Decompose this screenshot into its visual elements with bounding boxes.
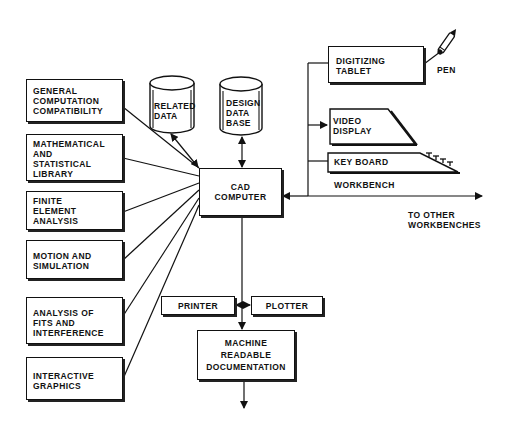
label-line: DATA bbox=[154, 111, 196, 121]
label-line: STATISTICAL bbox=[33, 159, 122, 169]
label-line: DISPLAY bbox=[333, 126, 372, 136]
label-line: SIMULATION bbox=[33, 261, 122, 271]
label-line: INTERFERENCE bbox=[33, 328, 122, 338]
label-line: TABLET bbox=[336, 66, 423, 76]
cad-computer-box: CAD COMPUTER bbox=[199, 168, 282, 216]
edge-ig-cad bbox=[123, 205, 199, 379]
printer-label: PRINTER bbox=[178, 301, 218, 311]
label-line: DATA bbox=[226, 108, 260, 118]
label-line: WORKBENCHES bbox=[408, 220, 481, 230]
label-line: LIBRARY bbox=[33, 169, 122, 179]
label-line: CAD bbox=[231, 182, 251, 192]
label-line: COMPUTER bbox=[215, 192, 267, 202]
label-line: READABLE bbox=[221, 349, 271, 361]
workbench-label: WORKBENCH bbox=[334, 180, 395, 190]
module-finite-element: FINITE ELEMENT ANALYSIS bbox=[26, 191, 123, 230]
label-line: MACHINE bbox=[225, 337, 267, 349]
plotter-label: PLOTTER bbox=[266, 301, 308, 311]
label-line: RELATED bbox=[154, 101, 196, 111]
other-workbenches-label: TO OTHER WORKBENCHES bbox=[408, 210, 481, 230]
label-line: ELEMENT bbox=[33, 206, 122, 216]
label-line: COMPUTATION bbox=[33, 96, 122, 106]
label-line: DIGITIZING bbox=[336, 56, 423, 66]
keyboard-label: KEY BOARD bbox=[334, 157, 388, 167]
label-line: FINITE bbox=[33, 196, 122, 206]
label-line: ANALYSIS OF bbox=[33, 308, 122, 318]
plotter-box: PLOTTER bbox=[251, 296, 323, 315]
label-line: INTERACTIVE bbox=[33, 371, 122, 381]
label-line: VIDEO bbox=[333, 116, 372, 126]
documentation-box: MACHINE READABLE DOCUMENTATION bbox=[197, 330, 295, 380]
label-line: FITS AND bbox=[33, 318, 122, 328]
edge-mas-cad bbox=[123, 190, 199, 260]
design-database-label: DESIGN DATA BASE bbox=[226, 98, 260, 128]
digitizing-tablet-box: DIGITIZING TABLET bbox=[328, 46, 424, 83]
printer-box: PRINTER bbox=[161, 296, 235, 315]
label-line: GENERAL bbox=[33, 86, 122, 96]
video-display-label: VIDEO DISPLAY bbox=[333, 116, 372, 136]
module-math-stat-library: MATHEMATICAL AND STATISTICAL LIBRARY bbox=[26, 134, 123, 181]
label-line: MATHEMATICAL bbox=[33, 139, 122, 149]
label-line: ANALYSIS bbox=[33, 216, 122, 226]
edge-msl-cad bbox=[123, 158, 199, 176]
edge-fea-cad bbox=[123, 183, 199, 212]
pen-cord bbox=[424, 52, 440, 64]
label-line: MOTION AND bbox=[33, 251, 122, 261]
module-general-computation: GENERAL COMPUTATION COMPATIBILITY bbox=[26, 79, 123, 122]
module-motion-simulation: MOTION AND SIMULATION bbox=[26, 240, 123, 279]
pen-icon bbox=[436, 27, 458, 55]
edge-related-cad bbox=[171, 134, 198, 167]
module-fits-interference: ANALYSIS OF FITS AND INTERFERENCE bbox=[26, 297, 123, 344]
label-line: AND bbox=[33, 149, 122, 159]
label-line: BASE bbox=[226, 118, 260, 128]
label-line: GRAPHICS bbox=[33, 381, 122, 391]
related-data-label: RELATED DATA bbox=[154, 101, 196, 121]
pen-label: PEN bbox=[437, 65, 456, 75]
label-line: DOCUMENTATION bbox=[206, 361, 286, 373]
label-line: TO OTHER bbox=[408, 210, 481, 220]
label-line: COMPATIBILITY bbox=[33, 106, 122, 116]
label-line: DESIGN bbox=[226, 98, 260, 108]
module-interactive-graphics: INTERACTIVE GRAPHICS bbox=[26, 357, 123, 400]
